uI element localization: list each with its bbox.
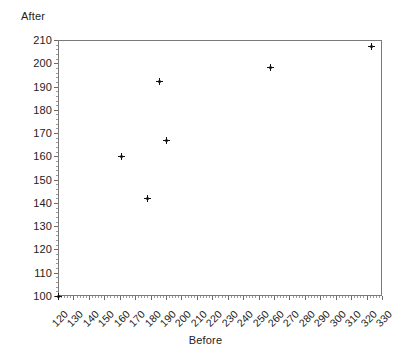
- y-axis-tick: [54, 203, 58, 204]
- y-axis-minor-tick: [56, 231, 58, 232]
- y-axis-tick-label: 170: [18, 127, 52, 139]
- y-axis-tick-label: 120: [18, 243, 52, 255]
- x-axis-minor-tick: [95, 296, 96, 298]
- x-axis-tick: [120, 296, 121, 300]
- y-axis-tick-label: 210: [18, 34, 52, 46]
- x-axis-minor-tick: [225, 296, 226, 298]
- x-axis-tick: [289, 296, 290, 300]
- x-axis-tick: [382, 296, 383, 300]
- y-axis-tick-label: 200: [18, 57, 52, 69]
- x-axis-minor-tick: [172, 296, 173, 298]
- y-axis-tick: [54, 226, 58, 227]
- y-axis-minor-tick: [56, 82, 58, 83]
- x-axis-minor-tick: [206, 296, 207, 298]
- y-axis-tick-label: 190: [18, 81, 52, 93]
- x-axis-tick-label: 330: [373, 308, 394, 329]
- x-axis-minor-tick: [330, 296, 331, 298]
- x-axis-tick: [228, 296, 229, 300]
- y-axis-minor-tick: [56, 217, 58, 218]
- data-point: [144, 195, 151, 202]
- x-axis-minor-tick: [376, 296, 377, 298]
- y-axis-minor-tick: [56, 277, 58, 278]
- x-axis-minor-tick: [296, 296, 297, 298]
- x-axis-minor-tick: [163, 296, 164, 298]
- x-axis-minor-tick: [86, 296, 87, 298]
- x-axis-minor-tick: [348, 296, 349, 298]
- y-axis-minor-tick: [56, 189, 58, 190]
- x-axis-minor-tick: [110, 296, 111, 298]
- scatter-plot-figure: After 1001101201301401501601701801902002…: [0, 0, 411, 358]
- x-axis-minor-tick: [252, 296, 253, 298]
- y-axis-minor-tick: [56, 68, 58, 69]
- x-axis-minor-tick: [222, 296, 223, 298]
- x-axis-minor-tick: [268, 296, 269, 298]
- plot-area: [58, 40, 382, 296]
- x-axis-minor-tick: [141, 296, 142, 298]
- y-axis-minor-tick: [56, 259, 58, 260]
- x-axis-minor-tick: [154, 296, 155, 298]
- x-axis-minor-tick: [194, 296, 195, 298]
- y-axis-minor-tick: [56, 96, 58, 97]
- x-axis-minor-tick: [262, 296, 263, 298]
- x-axis-minor-tick: [314, 296, 315, 298]
- x-axis-tick: [197, 296, 198, 300]
- x-axis-minor-tick: [178, 296, 179, 298]
- x-axis-minor-tick: [333, 296, 334, 298]
- data-point: [368, 43, 375, 50]
- y-axis-minor-tick: [56, 212, 58, 213]
- y-axis-minor-tick: [56, 287, 58, 288]
- x-axis-minor-tick: [231, 296, 232, 298]
- x-axis-minor-tick: [101, 296, 102, 298]
- y-axis-tick: [54, 180, 58, 181]
- x-axis-minor-tick: [114, 296, 115, 298]
- x-axis-title: Before: [0, 334, 411, 346]
- y-axis-minor-tick: [56, 124, 58, 125]
- x-axis-minor-tick: [188, 296, 189, 298]
- y-axis-tick: [54, 249, 58, 250]
- x-axis-minor-tick: [126, 296, 127, 298]
- y-axis-minor-tick: [56, 194, 58, 195]
- y-axis-tick-label: 180: [18, 104, 52, 116]
- y-axis-tick: [54, 156, 58, 157]
- y-axis-minor-tick: [56, 184, 58, 185]
- x-axis-minor-tick: [237, 296, 238, 298]
- x-axis-minor-tick: [240, 296, 241, 298]
- x-axis-tick: [320, 296, 321, 300]
- x-axis-tick: [274, 296, 275, 300]
- x-axis-minor-tick: [370, 296, 371, 298]
- x-axis-minor-tick: [185, 296, 186, 298]
- x-axis-tick: [89, 296, 90, 300]
- x-axis-minor-tick: [354, 296, 355, 298]
- x-axis-tick: [259, 296, 260, 300]
- x-axis-minor-tick: [249, 296, 250, 298]
- data-point: [163, 137, 170, 144]
- x-axis-minor-tick: [83, 296, 84, 298]
- y-axis-minor-tick: [56, 208, 58, 209]
- x-axis-tick: [243, 296, 244, 300]
- x-axis-minor-tick: [138, 296, 139, 298]
- x-axis-minor-tick: [379, 296, 380, 298]
- y-axis-minor-tick: [56, 166, 58, 167]
- x-axis-tick: [351, 296, 352, 300]
- y-axis-minor-tick: [56, 49, 58, 50]
- y-axis-minor-tick: [56, 45, 58, 46]
- x-axis-minor-tick: [345, 296, 346, 298]
- x-axis-minor-tick: [92, 296, 93, 298]
- x-axis-minor-tick: [323, 296, 324, 298]
- y-axis-tick-label: 130: [18, 220, 52, 232]
- x-axis-minor-tick: [311, 296, 312, 298]
- x-axis-minor-tick: [317, 296, 318, 298]
- y-axis-minor-tick: [56, 152, 58, 153]
- y-axis-tick-label: 150: [18, 174, 52, 186]
- x-axis-minor-tick: [360, 296, 361, 298]
- y-axis-tick: [54, 110, 58, 111]
- x-axis-minor-tick: [373, 296, 374, 298]
- x-axis-minor-tick: [218, 296, 219, 298]
- y-axis-minor-tick: [56, 170, 58, 171]
- x-axis-minor-tick: [107, 296, 108, 298]
- y-axis-title: After: [21, 10, 45, 22]
- data-point: [267, 64, 274, 71]
- x-axis-minor-tick: [144, 296, 145, 298]
- x-axis-minor-tick: [129, 296, 130, 298]
- x-axis-minor-tick: [123, 296, 124, 298]
